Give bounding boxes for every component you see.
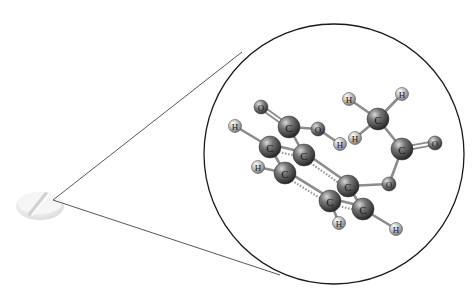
atom-label: O [315,125,322,135]
atom-label: C [300,150,307,162]
atom-label: H [346,95,353,105]
hydrogen-atom-H3: H [252,161,265,174]
atom-label: C [281,168,288,180]
atom-label: O [432,139,439,149]
atom-label: H [337,140,344,150]
atom-label: O [258,103,265,113]
atom-label: H [255,163,262,173]
hydrogen-atom-H4: H [333,217,346,230]
carbon-atom-C7: C [278,116,300,138]
carbon-atom-C3: C [274,162,296,184]
atom-label: H [393,225,400,235]
hydrogen-atom-H8: H [349,132,362,145]
atom-label: C [344,181,351,193]
carbon-atom-C8: C [391,138,413,160]
hydrogen-atom-H6: H [343,93,356,106]
atom-label: C [374,114,381,126]
atom-label: H [399,90,406,100]
atom-label: C [326,196,333,208]
carbon-atom-C6: C [352,198,374,220]
atom-label: H [336,219,343,229]
aspirin-tablet [16,192,64,220]
atom-label: H [352,134,359,144]
oxygen-atom-O1: O [254,100,268,114]
carbon-atom-C9: C [367,108,389,130]
atom-label: C [398,144,405,156]
atom-label: C [285,122,292,134]
carbon-atom-C5: C [319,190,341,212]
hydrogen-atom-H7: H [396,88,409,101]
atom-label: C [359,204,366,216]
carbon-atom-C2: C [293,144,315,166]
atom-label: O [386,180,393,190]
magnifier-circle [204,24,464,284]
oxygen-atom-O3: O [382,177,396,191]
oxygen-atom-O2: O [311,122,325,136]
carbon-atom-C1: C [259,136,281,158]
aspirin-molecule-diagram: HHHHHHHHOOOOCCCCCCCCC [0,0,476,308]
atom-label: C [266,142,273,154]
hydrogen-atom-H5: H [390,223,403,236]
hydrogen-atom-H2: H [229,120,242,133]
atom-label: H [232,122,239,132]
carbon-atom-C4: C [337,175,359,197]
oxygen-atom-O4: O [428,136,442,150]
hydrogen-atom-H1: H [334,138,347,151]
